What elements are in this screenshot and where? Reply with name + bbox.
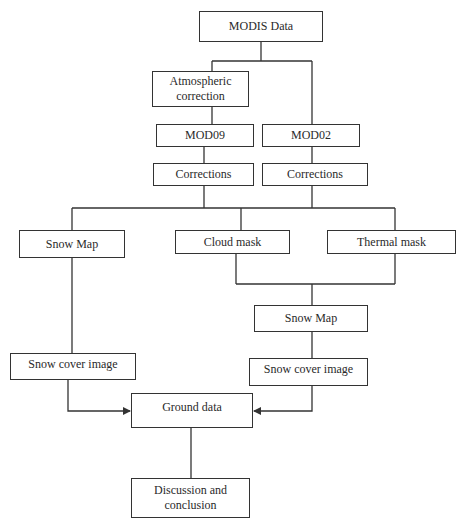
node-label: MOD09	[185, 128, 225, 143]
node-corrections-right: Corrections	[262, 163, 368, 186]
node-label: Corrections	[287, 167, 343, 182]
node-corrections-left: Corrections	[153, 163, 254, 186]
node-label: Ground data	[162, 400, 222, 415]
node-discussion-and-conclusion: Discussion and conclusion	[131, 478, 250, 518]
node-label: Cloud mask	[204, 235, 262, 250]
node-mod02: MOD02	[262, 124, 360, 147]
node-label: MOD02	[291, 128, 331, 143]
node-snow-map-right: Snow Map	[254, 305, 368, 332]
node-label: Snow cover image	[28, 357, 117, 372]
node-snow-cover-image-left: Snow cover image	[10, 353, 136, 380]
node-label: Thermal mask	[357, 235, 426, 250]
node-snow-cover-image-right: Snow cover image	[249, 358, 368, 386]
node-label: Snow Map	[285, 311, 337, 326]
node-snow-map-left: Snow Map	[19, 230, 125, 258]
node-modis-data: MODIS Data	[199, 11, 323, 42]
node-label: Discussion and conclusion	[154, 483, 227, 513]
flowchart: MODIS Data Atmospheric correction MOD09 …	[0, 0, 470, 526]
node-mod09: MOD09	[156, 124, 254, 147]
node-label: Corrections	[176, 167, 232, 182]
node-cloud-mask: Cloud mask	[175, 230, 290, 254]
node-atmospheric-correction: Atmospheric correction	[152, 71, 249, 107]
node-ground-data: Ground data	[131, 393, 253, 428]
node-label: Atmospheric correction	[170, 74, 232, 104]
node-thermal-mask: Thermal mask	[327, 230, 456, 254]
node-label: Snow Map	[46, 237, 98, 252]
node-label: Snow cover image	[264, 362, 353, 377]
node-label: MODIS Data	[229, 19, 293, 34]
